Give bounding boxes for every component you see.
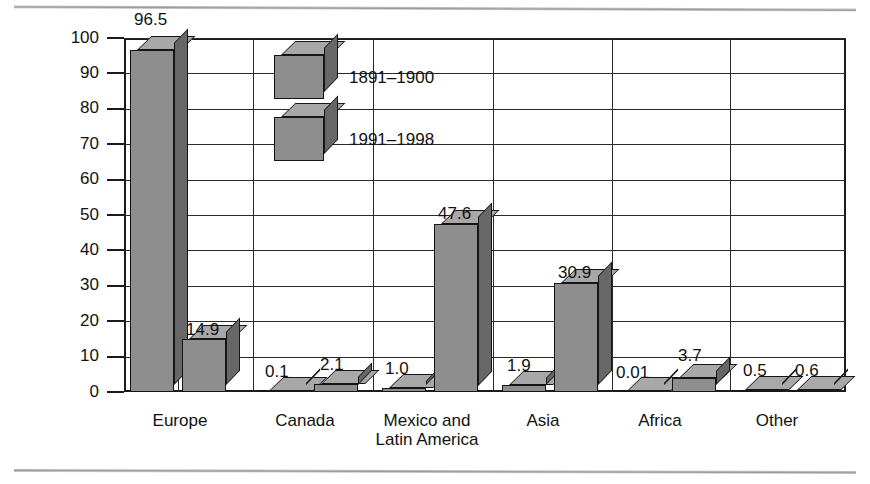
category-label-mexico-latin-america: Mexico and Latin America xyxy=(362,411,492,449)
y-tick-label-100: 100 xyxy=(71,29,107,46)
legend-label-1891-1900: 1891–1900 xyxy=(349,69,434,86)
y-tick-mark-100 xyxy=(107,37,124,39)
y-tick-mark-40 xyxy=(107,249,124,251)
bar-value-other-1891-1900: 0.5 xyxy=(743,362,767,379)
category-label-canada: Canada xyxy=(245,411,365,430)
y-tick-label-80: 80 xyxy=(80,99,107,116)
bar-other-1891-1900[interactable] xyxy=(738,390,782,392)
gridline-v-3 xyxy=(373,38,374,392)
legend-cube-1991-1998 xyxy=(274,117,324,161)
category-label-asia: Asia xyxy=(488,411,598,430)
y-tick-mark-70 xyxy=(107,143,124,145)
y-tick-mark-0 xyxy=(107,391,124,393)
y-tick-label-70: 70 xyxy=(80,135,107,152)
gridline-v-5 xyxy=(612,38,613,392)
bar-asia-1891-1900[interactable] xyxy=(502,385,546,392)
gridline-70 xyxy=(124,144,846,145)
bar-front-face xyxy=(554,283,598,392)
bar-mexico-1991-1998[interactable] xyxy=(434,224,478,393)
bar-front-face xyxy=(790,390,834,392)
legend-label-1991-1998: 1991–1998 xyxy=(349,131,434,148)
bar-front-face xyxy=(502,385,546,392)
bar-front-face xyxy=(314,384,358,392)
bar-value-asia-1991-1998: 30.9 xyxy=(558,264,591,281)
gridline-100 xyxy=(124,38,846,39)
y-tick-mark-30 xyxy=(107,285,124,287)
category-label-europe: Europe xyxy=(120,411,240,430)
y-tick-mark-20 xyxy=(107,320,124,322)
gridline-v-2 xyxy=(253,38,254,392)
category-label-other: Other xyxy=(717,411,837,430)
bar-africa-1891-1900[interactable] xyxy=(620,391,664,392)
chart-figure: Percentage of Total Immigration 100 90 xyxy=(0,0,870,484)
bar-side-face xyxy=(598,261,612,385)
bar-value-asia-1891-1900: 1.9 xyxy=(507,357,531,374)
legend-cube-front xyxy=(274,117,324,161)
bar-canada-1891-1900[interactable] xyxy=(262,391,306,393)
page-rule-bottom xyxy=(14,469,856,474)
bar-value-europe-1991-1998: 14.9 xyxy=(186,321,219,338)
bar-front-face xyxy=(182,339,226,392)
bar-front-face xyxy=(620,390,664,392)
gridline-80 xyxy=(124,109,846,110)
legend-swatch-1991-1998 xyxy=(274,117,332,161)
bar-value-mexico-1991-1998: 47.6 xyxy=(438,205,471,222)
bar-value-africa-1991-1998: 3.7 xyxy=(678,347,702,364)
y-tick-label-30: 30 xyxy=(80,276,107,293)
bar-front-face xyxy=(738,390,782,392)
bar-front-face xyxy=(262,390,306,392)
bar-value-canada-1891-1900: 0.1 xyxy=(265,363,289,380)
legend-cube-1891-1900 xyxy=(274,55,324,99)
bar-europe-1991-1998[interactable] xyxy=(182,339,226,392)
bar-europe-1891-1900[interactable] xyxy=(130,50,174,392)
y-tick-label-10: 10 xyxy=(80,347,107,364)
legend-cube-front xyxy=(274,55,324,99)
y-tick-mark-80 xyxy=(107,108,124,110)
legend-swatch-1891-1900 xyxy=(274,55,332,99)
plot-area: 100 90 80 70 60 50 40 30 xyxy=(124,38,846,392)
gridline-60 xyxy=(124,180,846,181)
bar-other-1991-1998[interactable] xyxy=(790,390,834,392)
bar-africa-1991-1998[interactable] xyxy=(672,378,716,392)
y-tick-label-50: 50 xyxy=(80,206,107,223)
category-label-africa: Africa xyxy=(600,411,720,430)
bar-value-other-1991-1998: 0.6 xyxy=(795,362,819,379)
bar-mexico-1891-1900[interactable] xyxy=(382,388,426,392)
y-tick-label-40: 40 xyxy=(80,241,107,258)
bar-value-africa-1891-1900: 0.01 xyxy=(616,364,649,381)
bar-front-face xyxy=(434,224,478,393)
y-tick-mark-10 xyxy=(107,356,124,358)
gridline-v-6 xyxy=(730,38,731,392)
y-tick-label-20: 20 xyxy=(80,312,107,329)
y-tick-label-90: 90 xyxy=(80,64,107,81)
bar-asia-1991-1998[interactable] xyxy=(554,283,598,392)
bar-front-face xyxy=(672,378,716,392)
y-tick-label-0: 0 xyxy=(90,383,107,400)
bar-front-face xyxy=(382,388,426,392)
y-tick-label-60: 60 xyxy=(80,170,107,187)
bar-value-canada-1991-1998: 2.1 xyxy=(320,356,344,373)
bar-side-face xyxy=(478,202,492,385)
bar-canada-1991-1998[interactable] xyxy=(314,384,358,392)
y-tick-mark-90 xyxy=(107,72,124,74)
bar-front-face xyxy=(130,50,174,392)
gridline-90 xyxy=(124,73,846,74)
bar-value-europe-1891-1900: 96.5 xyxy=(134,11,167,28)
bar-value-mexico-1891-1900: 1.0 xyxy=(385,360,409,377)
y-tick-mark-60 xyxy=(107,179,124,181)
y-tick-mark-50 xyxy=(107,214,124,216)
